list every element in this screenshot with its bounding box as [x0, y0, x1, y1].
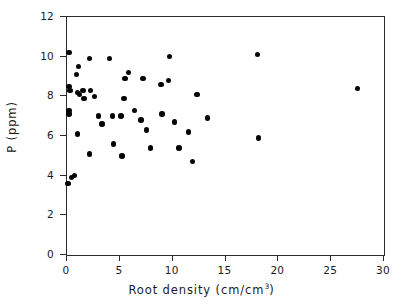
data-point [118, 113, 123, 118]
data-point [87, 151, 92, 156]
data-point [144, 127, 149, 132]
data-point [148, 145, 153, 150]
data-point [158, 82, 163, 87]
y-axis-tick [60, 135, 66, 136]
data-point [122, 76, 127, 81]
data-point [138, 117, 143, 122]
x-axis-tick-label: 20 [257, 265, 297, 276]
data-point [80, 88, 85, 93]
data-point [81, 96, 86, 101]
data-point [119, 153, 124, 158]
y-axis-tick [60, 16, 66, 17]
x-axis-tick-label: 15 [205, 265, 245, 276]
y-axis-tick-label: 0 [20, 249, 54, 260]
data-point [67, 88, 72, 93]
y-axis-tick-label: 6 [20, 130, 54, 141]
y-axis-title: P (ppm) [5, 77, 19, 177]
data-point [65, 181, 70, 186]
data-point [194, 92, 199, 97]
y-axis-tick-label: 12 [20, 11, 54, 22]
y-axis-tick-label: 8 [20, 90, 54, 101]
data-point [355, 86, 360, 91]
data-point [88, 88, 93, 93]
x-axis-tick [172, 255, 173, 261]
data-point [121, 96, 126, 101]
data-point [186, 129, 191, 134]
data-point [66, 111, 71, 116]
x-axis-tick-label: 10 [152, 265, 192, 276]
plot-area [66, 16, 385, 256]
data-point [205, 115, 210, 120]
y-axis-tick [60, 56, 66, 57]
x-axis-tick [225, 255, 226, 261]
scatter-chart-figure: 024681012 051015202530 Root density (cm/… [0, 0, 403, 305]
y-axis-tick [60, 214, 66, 215]
data-point [99, 121, 104, 126]
data-point [92, 94, 97, 99]
x-axis-title-base: Root density (cm/cm [128, 283, 264, 297]
x-axis-tick-label: 30 [363, 265, 403, 276]
x-axis-tick [66, 255, 67, 261]
y-axis-tick [60, 95, 66, 96]
data-point [166, 78, 171, 83]
data-point [96, 113, 101, 118]
data-point [132, 108, 137, 113]
data-point [76, 64, 81, 69]
data-point [172, 119, 177, 124]
data-points-layer [67, 17, 384, 255]
x-axis-tick-label: 25 [310, 265, 350, 276]
data-point [256, 135, 261, 140]
data-point [74, 72, 79, 77]
x-axis-tick-label: 0 [46, 265, 86, 276]
data-point [190, 159, 195, 164]
y-axis-tick-label: 10 [20, 51, 54, 62]
x-axis-tick-label: 5 [99, 265, 139, 276]
y-axis-tick-label: 4 [20, 170, 54, 181]
x-axis-tick [330, 255, 331, 261]
data-point [159, 111, 164, 116]
data-point [126, 70, 131, 75]
y-axis-tick [60, 175, 66, 176]
data-point [66, 50, 71, 55]
data-point [176, 145, 181, 150]
x-axis-tick [383, 255, 384, 261]
data-point [87, 56, 92, 61]
data-point [107, 56, 112, 61]
data-point [75, 131, 80, 136]
data-point [110, 113, 115, 118]
y-axis-tick-label: 2 [20, 209, 54, 220]
x-axis-title-tail: ) [269, 283, 274, 297]
data-point [111, 141, 116, 146]
data-point [255, 52, 260, 57]
data-point [72, 173, 77, 178]
x-axis-tick [119, 255, 120, 261]
data-point [167, 54, 172, 59]
x-axis-title: Root density (cm/cm3) [0, 282, 403, 297]
data-point [140, 76, 145, 81]
x-axis-tick [277, 255, 278, 261]
